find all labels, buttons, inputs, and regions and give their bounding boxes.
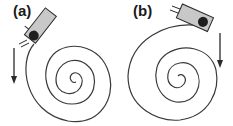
panel-a-drawing [0,0,116,126]
panel-b-drawing [116,0,233,126]
device-a [20,5,56,43]
device-b [176,4,213,32]
wires-a [19,40,29,47]
spiral-b [128,25,217,120]
panel-b: (b) [116,0,233,126]
panel-a: (a) [0,0,116,126]
arrow-down-icon-b [217,33,223,68]
spiral-a [26,44,111,122]
arrow-down-icon-a [11,48,17,84]
